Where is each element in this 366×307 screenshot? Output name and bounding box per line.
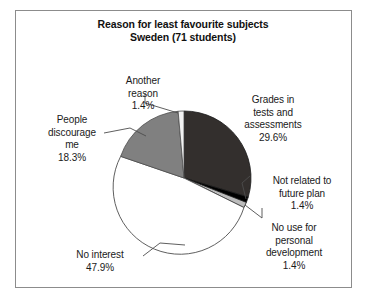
pie-chart-figure: Reason for least favourite subjects Swed… xyxy=(0,0,366,307)
pie-label-no-interest-percent: 47.9% xyxy=(52,262,148,274)
pie-label-people-discourage: People discourage me 18.3% xyxy=(28,102,116,176)
pie-label-no-use-text: No use for personal development xyxy=(266,222,322,258)
pie-label-people-discourage-percent: 18.3% xyxy=(28,152,116,164)
pie-label-no-interest: No interest 47.9% xyxy=(52,237,148,287)
pie-label-grades: Grades in tests and assessments 29.6% xyxy=(226,82,320,156)
pie-label-people-discourage-text: People discourage me xyxy=(48,114,96,150)
pie-label-no-use-percent: 1.4% xyxy=(240,260,348,272)
pie-label-no-use: No use for personal development 1.4% xyxy=(240,210,348,284)
pie-label-grades-text: Grades in tests and assessments xyxy=(244,94,301,130)
pie-label-grades-percent: 29.6% xyxy=(226,132,320,144)
pie-label-not-related-text: Not related to future plan xyxy=(273,175,332,198)
pie-label-another-reason-text: Another reason xyxy=(126,75,160,98)
pie-label-no-interest-text: No interest xyxy=(76,249,123,260)
